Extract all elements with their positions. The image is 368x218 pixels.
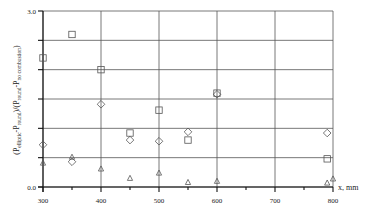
- x-tick-label: 300: [38, 197, 49, 205]
- diamond-marker: [323, 129, 331, 137]
- x-tick-label: 800: [328, 197, 339, 205]
- square-marker: [324, 156, 330, 162]
- data-series: [39, 31, 335, 185]
- series-triangle: [40, 154, 335, 185]
- y-tick-label: 3.0: [27, 8, 36, 16]
- x-axis-title: x, mm: [338, 183, 359, 192]
- square-marker: [127, 130, 133, 136]
- grid-lines: [43, 11, 333, 187]
- x-tick-label: 500: [154, 197, 165, 205]
- axes: [38, 11, 333, 192]
- triangle-marker: [325, 180, 330, 185]
- scatter-chart: 3004005006007008000.03.0 x, mm (Pellipti…: [0, 0, 368, 218]
- diamond-marker: [184, 128, 192, 136]
- triangle-marker: [127, 175, 132, 180]
- square-marker: [185, 137, 191, 143]
- x-tick-label: 700: [270, 197, 281, 205]
- x-tick-label: 600: [212, 197, 223, 205]
- x-tick-label: 400: [96, 197, 107, 205]
- y-tick-label: 0.0: [27, 184, 36, 192]
- tick-labels: 3004005006007008000.03.0: [27, 8, 339, 206]
- y-axis-title: (Pelliptic-Pround)/(Pround-Pno combustio…: [12, 45, 22, 155]
- diamond-marker: [126, 136, 134, 144]
- square-marker: [69, 31, 75, 37]
- triangle-marker: [185, 179, 190, 184]
- series-square: [40, 31, 331, 162]
